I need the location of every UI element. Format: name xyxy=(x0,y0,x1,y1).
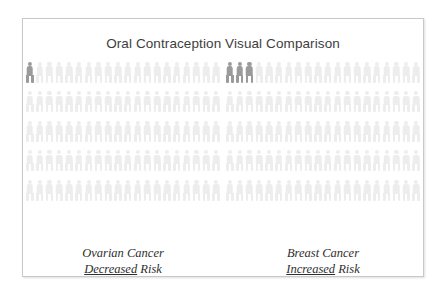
person-icon xyxy=(35,120,45,142)
person-icon xyxy=(372,91,382,113)
person-icon xyxy=(143,91,153,113)
person-icon xyxy=(245,150,255,172)
person-icon xyxy=(25,120,35,142)
person-icon xyxy=(94,61,104,83)
person-icon xyxy=(201,91,211,113)
person-icon xyxy=(45,120,55,142)
person-icon xyxy=(401,61,411,83)
person-icon xyxy=(123,150,133,172)
person-icon xyxy=(84,61,94,83)
person-icon xyxy=(401,179,411,201)
person-icon xyxy=(323,61,333,83)
person-icon xyxy=(254,91,264,113)
person-icon xyxy=(333,179,343,201)
pictogram-row xyxy=(225,61,421,91)
person-icon xyxy=(192,61,202,83)
person-icon xyxy=(182,61,192,83)
person-icon xyxy=(392,91,402,113)
person-icon xyxy=(294,179,304,201)
person-icon xyxy=(113,61,123,83)
person-icon xyxy=(201,179,211,201)
person-icon xyxy=(35,150,45,172)
person-icon xyxy=(294,61,304,83)
person-icon xyxy=(172,120,182,142)
person-icon xyxy=(264,120,274,142)
pictogram-row xyxy=(25,61,221,91)
person-icon xyxy=(294,120,304,142)
person-icon xyxy=(64,120,74,142)
person-icon xyxy=(372,150,382,172)
person-icon xyxy=(254,179,264,201)
person-icon xyxy=(84,120,94,142)
person-icon xyxy=(343,61,353,83)
person-icon xyxy=(103,120,113,142)
person-icon xyxy=(133,150,143,172)
person-icon xyxy=(392,120,402,142)
person-icon xyxy=(382,179,392,201)
person-icon xyxy=(123,91,133,113)
person-icon xyxy=(35,179,45,201)
person-icon xyxy=(254,150,264,172)
pictogram-group-breast xyxy=(225,61,421,213)
person-icon xyxy=(201,61,211,83)
person-icon-highlighted xyxy=(225,61,235,83)
person-icon xyxy=(411,150,421,172)
person-icon xyxy=(225,91,235,113)
person-icon xyxy=(143,150,153,172)
person-icon xyxy=(411,120,421,142)
person-icon xyxy=(245,179,255,201)
person-icon xyxy=(245,120,255,142)
person-icon xyxy=(123,61,133,83)
person-icon xyxy=(64,150,74,172)
labels-area: Ovarian Cancer Decreased Risk Breast Can… xyxy=(23,245,423,277)
person-icon xyxy=(113,179,123,201)
person-icon xyxy=(382,150,392,172)
person-icon xyxy=(74,120,84,142)
person-icon xyxy=(133,120,143,142)
person-icon xyxy=(172,91,182,113)
person-icon xyxy=(123,120,133,142)
label-breast-suffix: Risk xyxy=(335,262,360,276)
person-icon xyxy=(303,150,313,172)
person-icon xyxy=(84,91,94,113)
person-icon xyxy=(343,179,353,201)
person-icon xyxy=(94,120,104,142)
person-icon xyxy=(382,61,392,83)
person-icon xyxy=(352,179,362,201)
person-icon xyxy=(254,120,264,142)
person-icon xyxy=(54,179,64,201)
person-icon-highlighted xyxy=(245,61,255,83)
person-icon xyxy=(284,179,294,201)
person-icon xyxy=(333,150,343,172)
person-icon xyxy=(294,150,304,172)
pictogram-row xyxy=(225,120,421,150)
person-icon xyxy=(192,179,202,201)
person-icon xyxy=(401,150,411,172)
person-icon xyxy=(94,179,104,201)
person-icon xyxy=(313,91,323,113)
person-icon xyxy=(245,91,255,113)
person-icon xyxy=(211,91,221,113)
person-icon xyxy=(382,120,392,142)
person-icon xyxy=(274,91,284,113)
person-icon xyxy=(152,179,162,201)
person-icon xyxy=(284,150,294,172)
person-icon xyxy=(303,61,313,83)
person-icon xyxy=(411,179,421,201)
person-icon xyxy=(103,179,113,201)
person-icon xyxy=(284,120,294,142)
person-icon xyxy=(274,120,284,142)
person-icon xyxy=(201,120,211,142)
person-icon xyxy=(372,61,382,83)
person-icon xyxy=(372,179,382,201)
person-icon xyxy=(94,91,104,113)
person-icon-highlighted xyxy=(25,61,35,83)
person-icon xyxy=(303,91,313,113)
person-icon xyxy=(182,150,192,172)
person-icon xyxy=(401,120,411,142)
person-icon xyxy=(313,120,323,142)
person-icon xyxy=(162,91,172,113)
person-icon xyxy=(25,179,35,201)
person-icon xyxy=(201,150,211,172)
person-icon xyxy=(143,179,153,201)
